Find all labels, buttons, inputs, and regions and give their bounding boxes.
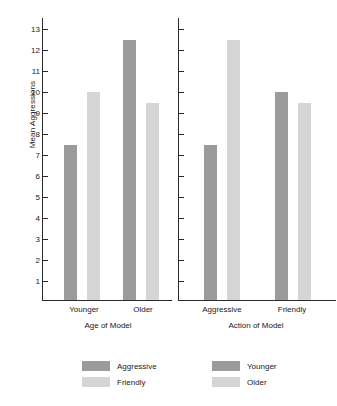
y-tick-right-4 bbox=[179, 218, 184, 219]
y-tick-right-13 bbox=[179, 29, 184, 30]
bar-aggressive-older bbox=[227, 40, 240, 301]
panel-age-of-model: 1 2 3 4 5 6 7 8 9 10 11 12 13 bbox=[42, 18, 172, 301]
y-tick-label-8: 8 bbox=[36, 130, 40, 139]
legend-swatch-aggressive bbox=[82, 361, 110, 371]
y-tick-label-13: 13 bbox=[31, 25, 40, 34]
bar-younger-friendly bbox=[87, 92, 100, 300]
y-tick-right-10 bbox=[179, 92, 184, 93]
panel-action-of-model bbox=[178, 18, 330, 301]
y-tick-label-11: 11 bbox=[32, 67, 40, 76]
y-tick-label-5: 5 bbox=[36, 193, 40, 202]
grouped-bar-chart-figure: Mean Aggressions 1 2 3 4 5 6 7 8 9 10 11… bbox=[0, 0, 337, 406]
group-label-younger: Younger bbox=[69, 305, 99, 314]
y-tick-8: 8 bbox=[43, 134, 48, 135]
y-tick-right-5 bbox=[179, 197, 184, 198]
legend-label-younger: Younger bbox=[247, 362, 277, 371]
y-tick-right-8 bbox=[179, 134, 184, 135]
y-tick-1: 1 bbox=[43, 281, 48, 282]
legend-item-older: Older bbox=[212, 374, 277, 390]
y-axis-line-right bbox=[178, 18, 179, 301]
y-tick-right-6 bbox=[179, 176, 184, 177]
x-axis-line-left bbox=[42, 300, 172, 301]
group-label-friendly: Friendly bbox=[278, 305, 306, 314]
y-tick-label-3: 3 bbox=[36, 235, 40, 244]
legend-label-aggressive: Aggressive bbox=[117, 362, 157, 371]
y-tick-right-2 bbox=[179, 260, 184, 261]
y-tick-label-10: 10 bbox=[31, 88, 40, 97]
legend-swatch-friendly bbox=[82, 377, 110, 387]
legend-swatch-older bbox=[212, 377, 240, 387]
bar-older-friendly bbox=[146, 103, 159, 301]
y-tick-13: 13 bbox=[43, 29, 48, 30]
y-tick-right-11 bbox=[179, 71, 184, 72]
y-tick-right-7 bbox=[179, 155, 184, 156]
x-axis-title-right: Action of Model bbox=[228, 321, 283, 330]
y-tick-label-2: 2 bbox=[36, 256, 40, 265]
y-tick-9: 9 bbox=[43, 113, 48, 114]
group-label-aggressive: Aggressive bbox=[202, 305, 242, 314]
group-label-older: Older bbox=[133, 305, 153, 314]
bar-aggressive-younger bbox=[204, 145, 217, 301]
legend-item-aggressive: Aggressive bbox=[82, 358, 157, 374]
y-tick-4: 4 bbox=[43, 218, 48, 219]
legend-label-friendly: Friendly bbox=[117, 378, 145, 387]
y-tick-label-12: 12 bbox=[31, 46, 40, 55]
legend-item-younger: Younger bbox=[212, 358, 277, 374]
y-tick-right-1 bbox=[179, 281, 184, 282]
y-tick-label-4: 4 bbox=[36, 214, 40, 223]
bar-younger-aggressive bbox=[64, 145, 77, 301]
y-tick-right-9 bbox=[179, 113, 184, 114]
y-tick-right-12 bbox=[179, 50, 184, 51]
bar-friendly-older bbox=[298, 103, 311, 301]
legend-age-of-model: Aggressive Friendly bbox=[82, 358, 157, 390]
bar-older-aggressive bbox=[123, 40, 136, 301]
y-tick-12: 12 bbox=[43, 50, 48, 51]
y-tick-right-3 bbox=[179, 239, 184, 240]
y-tick-label-1: 1 bbox=[36, 277, 40, 286]
y-axis-line-left bbox=[42, 18, 43, 301]
y-tick-11: 11 bbox=[43, 71, 48, 72]
y-tick-label-6: 6 bbox=[36, 172, 40, 181]
legend-action-of-model: Younger Older bbox=[212, 358, 277, 390]
bar-friendly-younger bbox=[275, 92, 288, 300]
legend-label-older: Older bbox=[247, 378, 267, 387]
y-tick-10: 10 bbox=[43, 92, 48, 93]
y-tick-label-9: 9 bbox=[36, 109, 40, 118]
y-tick-5: 5 bbox=[43, 197, 48, 198]
y-tick-2: 2 bbox=[43, 260, 48, 261]
x-axis-line-right bbox=[178, 300, 336, 301]
y-tick-7: 7 bbox=[43, 155, 48, 156]
legend-swatch-younger bbox=[212, 361, 240, 371]
x-axis-title-left: Age of Model bbox=[84, 321, 131, 330]
y-tick-3: 3 bbox=[43, 239, 48, 240]
y-tick-6: 6 bbox=[43, 176, 48, 177]
legend-item-friendly: Friendly bbox=[82, 374, 157, 390]
y-tick-label-7: 7 bbox=[36, 151, 40, 160]
